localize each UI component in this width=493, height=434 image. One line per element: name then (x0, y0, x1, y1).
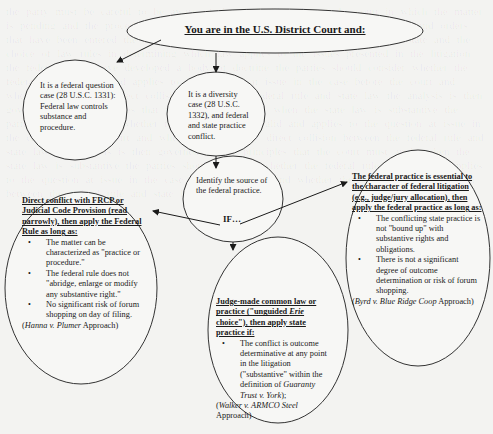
hanna-bullet: The matter can be characterized as "prac… (46, 238, 148, 269)
walker-bullet: The conflict is outcome determinative at… (240, 339, 334, 401)
federal-question-node: It is a federal question case (28 U.S.C.… (40, 81, 116, 133)
diagram-title: You are in the U.S. District Court and: (152, 24, 398, 34)
diversity-node: It is a diversity case (28 U.S.C. 1332),… (188, 90, 250, 142)
diversity-text: It is a diversity case (28 U.S.C. 1332),… (188, 90, 249, 141)
hanna-bullet: The federal rule does not "abridge, enla… (46, 269, 148, 300)
byrd-bullet: There is not a significant degree of out… (376, 255, 482, 297)
byrd-heading: The federal practice is essential to the… (352, 172, 482, 214)
walker-node: Judge-made common law or practice ("ungu… (216, 297, 334, 422)
if-label: IF… (223, 214, 241, 224)
byrd-bullet: The conflicting state practice is not "b… (376, 214, 482, 256)
walker-citation: (Walker v. ARMCO Steel Approach) (216, 401, 334, 422)
walker-heading: Judge-made common law or practice ("ungu… (216, 297, 334, 339)
hanna-citation: (Hanna v. Plumer Approach) (22, 321, 148, 331)
hanna-bullet-list: The matter can be characterized as "prac… (22, 238, 148, 321)
walker-bullet-list: The conflict is outcome determinative at… (216, 339, 334, 401)
byrd-citation: (Byrd v. Blue Ridge Coop Approach) (352, 297, 482, 307)
hanna-bullet: No significant risk of forum shopping on… (46, 300, 148, 321)
hanna-heading: Direct conflict with FRCP or Judicial Co… (22, 196, 148, 238)
federal-question-text: It is a federal question case (28 U.S.C.… (40, 81, 116, 132)
identify-source-node: Identify the source of the federal pract… (196, 176, 274, 197)
hanna-node: Direct conflict with FRCP or Judicial Co… (22, 196, 148, 331)
byrd-bullet-list: The conflicting state practice is not "b… (352, 214, 482, 297)
byrd-node: The federal practice is essential to the… (352, 172, 482, 307)
identify-source-text: Identify the source of the federal pract… (196, 176, 274, 197)
